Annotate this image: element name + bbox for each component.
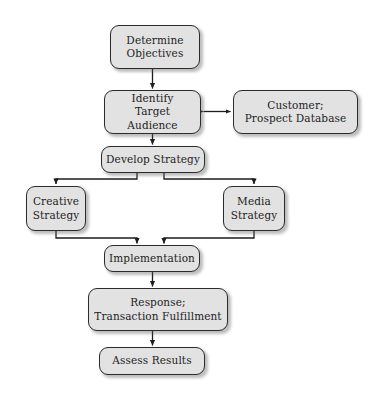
- node-creative-strategy[interactable]: Creative Strategy: [26, 186, 86, 231]
- flowchart-canvas: Determine Objectives Identify Target Aud…: [0, 0, 368, 394]
- node-identify-target-audience[interactable]: Identify Target Audience: [104, 90, 201, 134]
- edge-strategy-to-media: [164, 173, 254, 184]
- edge-media-to-implementation: [164, 231, 254, 244]
- edge-creative-to-implementation: [56, 231, 137, 244]
- node-response-transaction-fulfillment[interactable]: Response; Transaction Fulfillment: [88, 288, 228, 331]
- node-label: Customer; Prospect Database: [245, 99, 347, 126]
- node-label: Response; Transaction Fulfillment: [94, 296, 221, 323]
- node-label: Creative Strategy: [33, 195, 80, 222]
- node-label: Implementation: [109, 252, 195, 265]
- node-label: Assess Results: [112, 354, 191, 367]
- node-assess-results[interactable]: Assess Results: [99, 347, 205, 375]
- node-develop-strategy[interactable]: Develop Strategy: [101, 146, 205, 173]
- node-label: Determine Objectives: [126, 34, 183, 61]
- node-label: Media Strategy: [231, 195, 278, 222]
- node-implementation[interactable]: Implementation: [104, 245, 200, 272]
- node-label: Identify Target Audience: [109, 92, 196, 132]
- node-determine-objectives[interactable]: Determine Objectives: [110, 25, 200, 69]
- edge-strategy-to-creative: [56, 173, 137, 184]
- node-media-strategy[interactable]: Media Strategy: [223, 186, 285, 231]
- node-label: Develop Strategy: [106, 153, 200, 166]
- node-customer-prospect-database[interactable]: Customer; Prospect Database: [233, 90, 358, 134]
